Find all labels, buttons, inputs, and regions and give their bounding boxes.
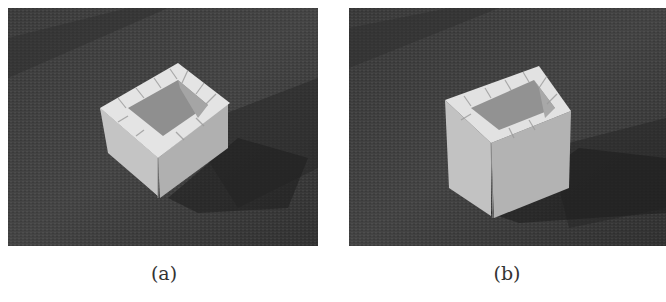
photo-panel-b — [349, 8, 666, 246]
impossible-box-photo-a — [8, 8, 318, 246]
caption-a: (a) — [124, 262, 204, 284]
impossible-box-photo-b — [349, 8, 666, 246]
photo-panel-a — [8, 8, 318, 246]
caption-b: (b) — [467, 262, 547, 284]
